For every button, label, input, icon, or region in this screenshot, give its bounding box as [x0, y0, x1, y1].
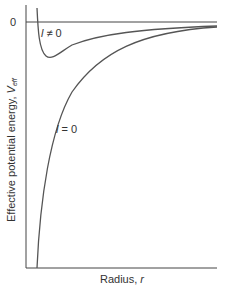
x-axis-label: Radius, r — [100, 273, 145, 285]
y-axis-label: Effective potential energy, Veff — [5, 77, 18, 222]
label-l-zero: l = 0 — [56, 123, 77, 135]
potential-energy-diagram: 0 l ≠ 0 l = 0 Radius, r Effective potent… — [0, 0, 226, 290]
zero-tick-label: 0 — [10, 16, 16, 28]
label-l-nonzero: l ≠ 0 — [41, 27, 62, 39]
curve-l-zero — [37, 27, 217, 268]
curve-l-nonzero — [37, 8, 217, 57]
